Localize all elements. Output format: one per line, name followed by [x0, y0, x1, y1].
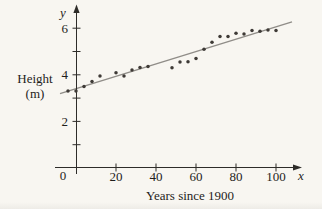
- x-tick-label: 60: [190, 169, 203, 184]
- data-point: [74, 89, 78, 93]
- data-point: [210, 40, 214, 44]
- data-point: [98, 74, 102, 78]
- x-tick-label: 100: [266, 169, 286, 184]
- data-point: [122, 74, 126, 78]
- y-axis-symbol-text: y: [60, 5, 66, 20]
- data-point: [258, 29, 262, 33]
- data-point: [274, 29, 278, 33]
- data-point: [130, 68, 134, 72]
- data-point: [138, 66, 142, 70]
- y-tick-label: 6: [62, 21, 69, 36]
- x-tick-label: 80: [230, 169, 243, 184]
- trend-line: [60, 22, 292, 94]
- data-point: [202, 47, 206, 51]
- data-point: [250, 29, 254, 33]
- y-axis-symbol: y: [60, 5, 74, 20]
- y-axis-title-line1: Height: [13, 71, 57, 86]
- y-axis-title: Height (m): [13, 71, 57, 101]
- data-point: [170, 66, 174, 70]
- data-point: [82, 85, 86, 89]
- data-point: [186, 60, 190, 64]
- data-point: [66, 89, 70, 93]
- x-tick-label: 20: [110, 169, 123, 184]
- data-point: [114, 71, 118, 75]
- data-point: [178, 60, 182, 64]
- x-axis-symbol-text: x: [298, 168, 304, 183]
- y-axis-arrow-icon: [73, 5, 79, 14]
- data-point: [218, 35, 222, 39]
- data-point: [234, 32, 238, 36]
- data-point: [226, 35, 230, 39]
- data-point: [146, 65, 150, 69]
- y-tick-label: 2: [62, 114, 69, 129]
- y-tick-label: 4: [62, 67, 69, 82]
- x-axis-symbol: x: [298, 168, 312, 183]
- data-point: [242, 32, 246, 36]
- data-point: [266, 28, 270, 32]
- origin-label: 0: [56, 168, 70, 183]
- plot-svg: 20406080100246: [0, 0, 322, 209]
- data-point: [90, 80, 94, 84]
- x-tick-label: 40: [150, 169, 163, 184]
- x-axis-title: Years since 1900: [138, 188, 242, 203]
- y-axis-title-line2: (m): [13, 86, 57, 101]
- pole-vault-scatter-figure: 20406080100246 y x Height (m) Years sinc…: [0, 0, 322, 209]
- data-point: [194, 57, 198, 61]
